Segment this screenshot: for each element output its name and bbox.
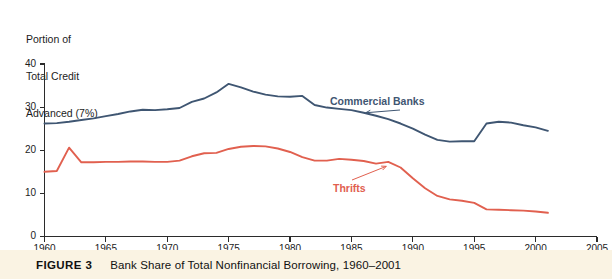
y-axis-tick-label: 30 [8, 101, 36, 112]
chart-series-group [45, 84, 548, 213]
y-axis-tick-label: 20 [8, 144, 36, 155]
y-axis-tick-label: 0 [8, 230, 36, 241]
series-line-commercial-banks [45, 84, 548, 142]
figure-caption-bar: FIGURE 3 Bank Share of Total Nonfinancia… [0, 250, 612, 279]
leader-commercial-banks [366, 110, 400, 113]
figure-number: FIGURE 3 [36, 259, 92, 271]
chart-plot [0, 0, 612, 250]
x-axis-ticks [45, 237, 598, 242]
y-axis-tick-label: 10 [8, 187, 36, 198]
figure-area: Portion of Total Credit Advanced (7%) 01… [0, 0, 612, 250]
leader-thrifts [352, 166, 386, 180]
chart-axes [40, 64, 598, 242]
series-label-commercial-banks: Commercial Banks [330, 95, 425, 107]
figure-caption-title: Bank Share of Total Nonfinancial Borrowi… [110, 259, 401, 271]
series-line-thrifts [45, 146, 548, 213]
y-axis-tick-label: 40 [8, 58, 36, 69]
y-axis-ticks [40, 64, 45, 237]
series-label-thrifts: Thrifts [333, 182, 366, 194]
